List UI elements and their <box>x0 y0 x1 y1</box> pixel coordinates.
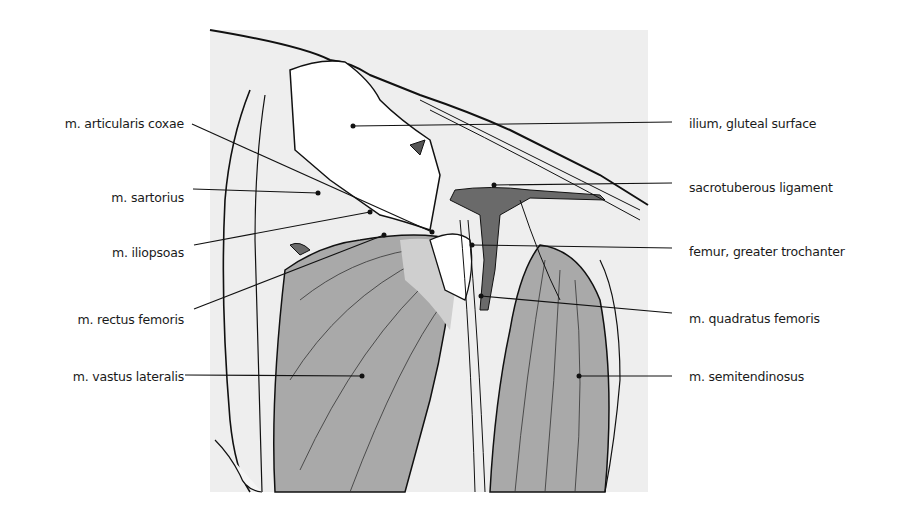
label-semitendinosus: m. semitendinosus <box>689 370 804 384</box>
label-quadratus-femoris: m. quadratus femoris <box>689 312 820 326</box>
label-rectus-femoris: m. rectus femoris <box>78 313 185 327</box>
anatomical-illustration <box>0 0 904 531</box>
label-sartorius: m. sartorius <box>111 191 184 205</box>
label-sacrotuberous-ligament: sacrotuberous ligament <box>689 181 833 195</box>
label-vastus-lateralis: m. vastus lateralis <box>73 370 184 384</box>
label-ilium-gluteal-surface: ilium, gluteal surface <box>689 117 816 131</box>
label-iliopsoas: m. iliopsoas <box>112 246 184 260</box>
label-articularis-coxae: m. articularis coxae <box>65 117 184 131</box>
label-femur-greater-trochanter: femur, greater trochanter <box>689 245 845 259</box>
